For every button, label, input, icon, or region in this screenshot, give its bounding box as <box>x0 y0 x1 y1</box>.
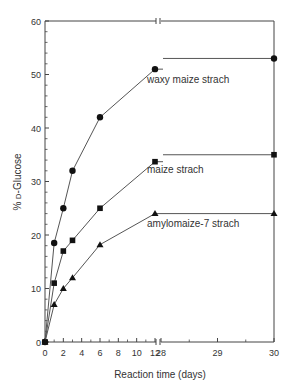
y-tick-label: 0 <box>36 338 41 348</box>
x-tick-label: 10 <box>132 348 142 358</box>
y-tick-label: 10 <box>31 284 41 294</box>
x-tick-label: 30 <box>269 348 279 358</box>
series-2 <box>42 210 278 344</box>
square-marker-icon <box>97 205 103 211</box>
x-tick-label: 6 <box>97 348 102 358</box>
square-marker-icon <box>271 152 277 158</box>
y-tick-label: 30 <box>31 177 41 187</box>
chart-canvas: 0102030405060024681012282930 waxy maize … <box>0 0 292 390</box>
series-0 <box>42 55 277 345</box>
square-marker-icon <box>61 248 67 254</box>
y-axis-title: % D-Glucose <box>12 153 23 211</box>
square-marker-icon <box>51 280 57 286</box>
circle-marker-icon <box>97 114 103 120</box>
x-tick-label: 8 <box>116 348 121 358</box>
series-label-amylomaize: amylomaize-7 strach <box>147 218 239 229</box>
x-tick-label: 0 <box>42 348 47 358</box>
square-marker-icon <box>70 238 76 244</box>
series-label-maize: maize strach <box>147 164 204 175</box>
series-label-waxy: waxy maize strach <box>146 74 229 85</box>
y-tick-label: 60 <box>31 17 41 27</box>
circle-marker-icon <box>60 205 66 211</box>
triangle-marker-icon <box>97 241 104 247</box>
circle-marker-icon <box>152 66 158 72</box>
y-tick-label: 20 <box>31 231 41 241</box>
series-layer <box>42 55 278 345</box>
circle-marker-icon <box>69 168 75 174</box>
x-axis-title: Reaction time (days) <box>114 369 206 380</box>
x-tick-label: 4 <box>79 348 84 358</box>
x-tick-label: 29 <box>212 348 222 358</box>
series-line <box>45 214 155 342</box>
y-tick-label: 40 <box>31 124 41 134</box>
x-tick-label: 2 <box>61 348 66 358</box>
series-1 <box>42 152 277 345</box>
y-tick-label: 50 <box>31 70 41 80</box>
circle-marker-icon <box>51 240 57 246</box>
x-tick-label: 28 <box>156 348 166 358</box>
circle-marker-icon <box>271 55 277 61</box>
